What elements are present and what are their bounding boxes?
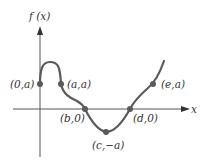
x-axis-label: x: [191, 103, 197, 115]
function-graph: f (x) x (0,a) (a,a) (b,0) (c,−a) (d,0) (…: [0, 0, 205, 164]
point-e-a: [150, 81, 156, 87]
y-axis-label: f (x): [28, 10, 50, 22]
label-d-0: (d,0): [133, 112, 158, 124]
label-c-neg-a: (c,−a): [92, 139, 124, 151]
label-e-a: (e,a): [161, 78, 185, 90]
point-a-a: [58, 81, 64, 87]
x-axis-arrow-icon: [181, 106, 190, 112]
label-b-0: (b,0): [60, 112, 85, 124]
label-a-a: (a,a): [67, 78, 91, 90]
point-0-a: [37, 81, 43, 87]
y-axis-arrow-icon: [37, 26, 43, 35]
point-c-neg-a: [103, 129, 109, 135]
label-0-a: (0,a): [10, 78, 34, 90]
